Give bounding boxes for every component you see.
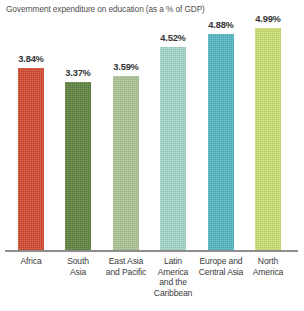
bar-value-label: 3.37% [51, 68, 105, 78]
bar[interactable] [18, 68, 44, 251]
category-label-line: and the [142, 277, 204, 288]
bar[interactable] [255, 28, 281, 251]
bar-value-label: 4.52% [146, 33, 200, 43]
bar-group: 3.59% [113, 0, 139, 256]
bar-group: 3.84% [18, 0, 44, 256]
bar-value-label: 3.84% [4, 54, 58, 64]
category-label-north-america: NorthAmerica [237, 256, 299, 277]
bar-group: 4.52% [160, 0, 186, 256]
category-label-line: North [237, 256, 299, 267]
bar[interactable] [160, 47, 186, 251]
bar-value-label: 4.99% [241, 14, 295, 24]
bar-chart: Government expenditure on education (as … [0, 0, 304, 311]
x-axis-category-labels: AfricaSouthAsiaEast Asiaand PacificLatin… [0, 256, 304, 311]
bar[interactable] [65, 82, 91, 251]
bar[interactable] [113, 76, 139, 251]
bar-group: 3.37% [65, 0, 91, 256]
bar-value-label: 3.59% [99, 62, 153, 72]
plot-area: 3.84%3.37%3.59%4.52%4.88%4.99% [0, 0, 304, 256]
category-label-line: Caribbean [142, 288, 204, 299]
bar-group: 4.88% [208, 0, 234, 256]
bar-group: 4.99% [255, 0, 281, 256]
bar[interactable] [208, 34, 234, 251]
bar-value-label: 4.88% [194, 20, 248, 30]
x-axis-baseline [5, 250, 298, 252]
category-label-line: America [237, 267, 299, 278]
